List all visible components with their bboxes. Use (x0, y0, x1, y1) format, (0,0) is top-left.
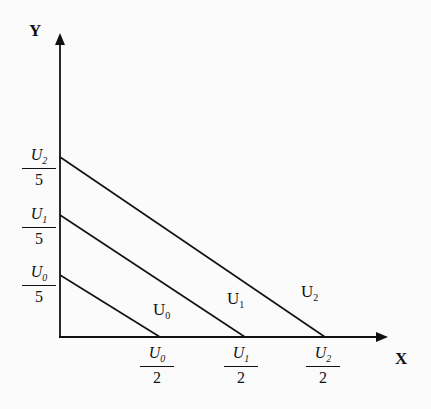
y-axis-label: Y (29, 22, 41, 39)
x-intercept-u0: U0 2 (140, 345, 174, 386)
line-u2 (60, 157, 325, 337)
x-intercept-u1: U1 2 (224, 345, 258, 386)
y-intercept-u1: U1 5 (22, 206, 56, 247)
curve-label-u2: U2 (301, 282, 318, 303)
x-axis-label: X (395, 350, 407, 367)
line-u0 (60, 275, 160, 337)
curve-label-u0: U0 (153, 300, 170, 321)
y-intercept-u2: U2 5 (22, 147, 56, 188)
x-intercept-u2: U2 2 (306, 345, 340, 386)
diagram-canvas (0, 0, 431, 409)
x-axis-arrow-icon (376, 332, 388, 342)
y-intercept-u0: U0 5 (22, 264, 56, 305)
curve-label-u1: U1 (227, 289, 244, 310)
y-axis-arrow-icon (55, 33, 65, 45)
